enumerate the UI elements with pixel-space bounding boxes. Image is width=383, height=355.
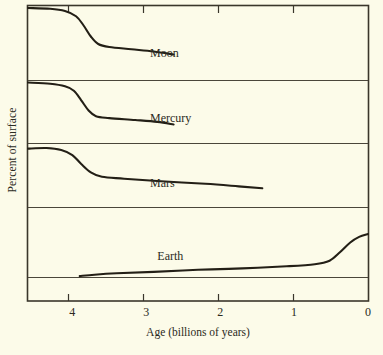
data-curves xyxy=(28,8,368,276)
curve-mars xyxy=(28,148,262,188)
series-label-mars: Mars xyxy=(150,176,175,191)
top-axis-ticks xyxy=(69,6,294,13)
curve-earth xyxy=(80,234,368,276)
series-label-earth: Earth xyxy=(157,249,183,264)
x-tick-label-2: 2 xyxy=(208,305,232,320)
x-tick-label-0: 0 xyxy=(356,305,380,320)
panel-dividers xyxy=(28,81,368,278)
x-tick-label-4: 4 xyxy=(60,305,84,320)
chart-figure: Percent of surface 43210 xyxy=(0,0,383,355)
bottom-axis-ticks xyxy=(69,294,294,301)
series-label-mercury: Mercury xyxy=(150,111,191,126)
x-axis-label: Age (billions of years) xyxy=(27,326,369,338)
chart-plot-area xyxy=(0,0,383,355)
plot-frame xyxy=(28,6,369,302)
series-label-moon: Moon xyxy=(150,46,179,61)
x-tick-label-1: 1 xyxy=(282,305,306,320)
x-tick-label-3: 3 xyxy=(134,305,158,320)
